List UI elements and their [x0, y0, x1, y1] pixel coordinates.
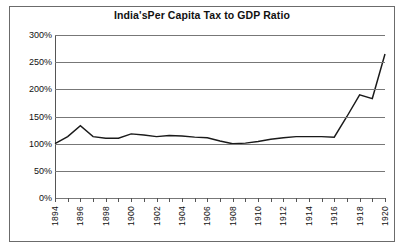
- chart-figure: India'sPer Capita Tax to GDP Ratio 300%2…: [0, 0, 403, 247]
- x-tick-label: 1896: [75, 206, 85, 226]
- x-tick-label: 1906: [202, 206, 212, 226]
- x-tick-label: 1898: [101, 206, 111, 226]
- x-tick-label: 1908: [228, 206, 238, 226]
- x-tick-label: 1902: [152, 206, 162, 226]
- x-tick-label: 1910: [253, 206, 263, 226]
- x-tick-label: 1912: [278, 206, 288, 226]
- x-tick-label: 1916: [329, 206, 339, 226]
- x-tick-label: 1894: [50, 206, 60, 226]
- x-tick-label: 1904: [177, 206, 187, 226]
- x-tick-label: 1920: [380, 206, 390, 226]
- x-tick-label: 1900: [126, 206, 136, 226]
- x-tick-label: 1918: [355, 206, 365, 226]
- x-tick-label: 1914: [304, 206, 314, 226]
- x-axis-labels: 1894189618981900190219041906190819101912…: [0, 0, 403, 247]
